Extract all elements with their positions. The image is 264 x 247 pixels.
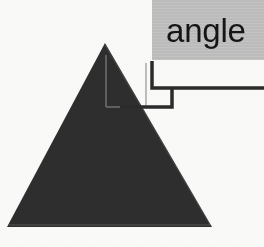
angle-label-text: angle [166, 14, 246, 47]
leader-line-upper [152, 61, 264, 88]
triangle-shape [7, 43, 212, 227]
diagram-canvas: angle [0, 0, 264, 247]
angle-label-box: angle [152, 0, 264, 60]
